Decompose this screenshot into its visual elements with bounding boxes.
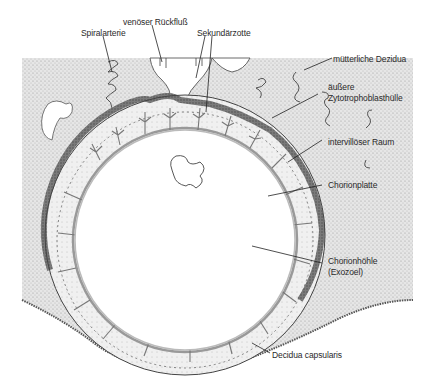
label-decidua-capsularis: Decidua capsularis: [272, 350, 342, 360]
label-chorionic-cavity-1: Chorionhöhle: [328, 256, 377, 266]
label-secondary-villus: Sekundärzotte: [197, 28, 251, 38]
label-spiral-artery: Spiralarterie: [81, 28, 126, 38]
label-outer-cytotrophoblast-2: Zytotrophoblasthülle: [328, 93, 403, 103]
label-venous-return: venöser Rückfluß: [123, 17, 188, 27]
label-outer-cytotrophoblast-1: äußere: [328, 82, 354, 92]
label-maternal-decidua: mütterliche Dezidua: [333, 54, 406, 64]
label-intervillous-space: intervillöser Raum: [328, 137, 394, 147]
label-chorionic-cavity-2: (Exozoel): [328, 267, 363, 277]
label-chorionic-plate: Chorionplatte: [328, 180, 377, 190]
